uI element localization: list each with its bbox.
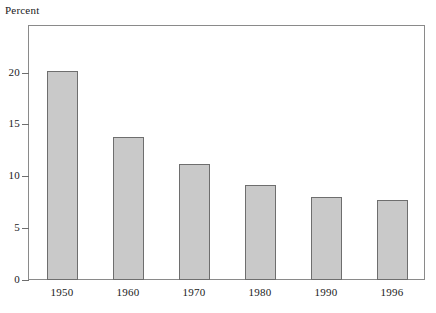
- bar-1996: [377, 200, 408, 280]
- bar-1980: [245, 185, 276, 280]
- y-tick-label-20: 20: [2, 67, 20, 78]
- x-tick-label-1950: 1950: [32, 286, 92, 298]
- y-tick-mark-0: [22, 280, 29, 281]
- bar-1970: [179, 164, 210, 280]
- y-tick-mark-20: [22, 73, 29, 74]
- y-tick-mark-5: [22, 228, 29, 229]
- x-tick-label-1990: 1990: [296, 286, 356, 298]
- x-tick-label-1996: 1996: [362, 286, 422, 298]
- bar-1950: [47, 71, 78, 280]
- x-tick-label-1980: 1980: [230, 286, 290, 298]
- y-tick-label-5: 5: [2, 222, 20, 233]
- bar-1960: [113, 137, 144, 280]
- y-tick-label-15: 15: [2, 118, 20, 129]
- x-tick-label-1960: 1960: [98, 286, 158, 298]
- plot-area: [29, 26, 425, 280]
- bar-1990: [311, 197, 342, 280]
- y-tick-label-0: 0: [2, 274, 20, 285]
- y-tick-mark-10: [22, 176, 29, 177]
- percent-bar-chart: Percent 05101520 19501960197019801990199…: [0, 0, 436, 313]
- x-tick-label-1970: 1970: [164, 286, 224, 298]
- y-tick-mark-15: [22, 124, 29, 125]
- y-axis-title: Percent: [5, 3, 39, 17]
- y-tick-label-10: 10: [2, 170, 20, 181]
